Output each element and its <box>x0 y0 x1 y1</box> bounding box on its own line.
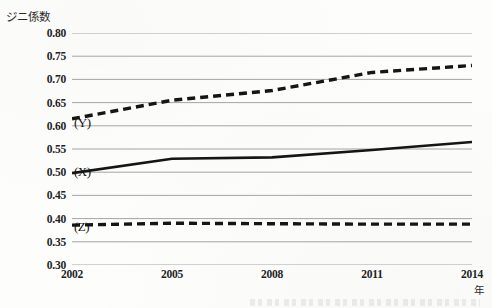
plot-area <box>72 33 472 265</box>
y-axis-tick-label: 0.50 <box>20 166 66 178</box>
chart-figure: ジニ係数 0.800.750.700.650.600.550.500.450.4… <box>0 0 492 308</box>
y-axis-tick-label: 0.55 <box>20 143 66 155</box>
y-axis-tick-label: 0.75 <box>20 50 66 62</box>
series-label: (X) <box>74 164 91 180</box>
gridline-group <box>72 33 472 265</box>
x-axis-title: 年 <box>474 282 484 297</box>
series-line <box>72 223 472 225</box>
plot-svg <box>72 33 472 265</box>
y-axis-tick-label: 0.40 <box>20 213 66 225</box>
x-axis-tick-label: 2005 <box>161 268 183 280</box>
x-axis-tick-label: 2002 <box>61 268 83 280</box>
x-axis-tick-label: 2014 <box>461 268 483 280</box>
y-axis-tick-label: 0.65 <box>20 97 66 109</box>
y-axis-tick-label: 0.70 <box>20 73 66 85</box>
y-axis-tick-label: 0.60 <box>20 120 66 132</box>
series-line <box>72 65 472 118</box>
y-axis-tick-label: 0.35 <box>20 236 66 248</box>
y-axis-tick-label: 0.45 <box>20 189 66 201</box>
series-label: (Y) <box>74 115 91 131</box>
series-label: (Z) <box>74 219 89 235</box>
scan-artifact-text <box>250 299 480 306</box>
x-axis-tick-label: 2008 <box>261 268 283 280</box>
y-axis-title: ジニ係数 <box>6 8 50 24</box>
x-axis-tick-label: 2011 <box>361 268 383 280</box>
y-axis-tick-label: 0.80 <box>20 27 66 39</box>
series-line <box>72 142 472 173</box>
y-axis-tick-label: 0.30 <box>20 259 66 271</box>
series-group <box>72 65 472 225</box>
